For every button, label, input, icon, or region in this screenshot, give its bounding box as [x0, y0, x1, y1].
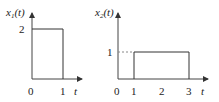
xtick-3: 3 [186, 85, 192, 97]
xtick-1: 1 [60, 85, 66, 97]
ytick-2: 2 [19, 23, 25, 35]
xlabel-t: t [201, 85, 205, 97]
xtick-2: 2 [159, 85, 165, 97]
xlabel-t: t [74, 85, 78, 97]
ytick-1: 1 [107, 46, 113, 58]
xtick-0: 0 [28, 85, 34, 97]
plot-x2: x2(t) 1 0 1 2 3 t [94, 6, 208, 97]
xtick-1: 1 [131, 85, 137, 97]
ylabel-x2: x2(t) [94, 6, 114, 20]
pulse-x1 [32, 29, 63, 79]
plot-x1: x1(t) 2 0 1 t [5, 6, 82, 97]
pulse-x2 [134, 52, 189, 79]
ylabel-x1: x1(t) [5, 6, 25, 20]
signal-plots: x1(t) 2 0 1 t x2(t) 1 0 1 2 3 t [0, 0, 219, 102]
xtick-0: 0 [114, 85, 120, 97]
